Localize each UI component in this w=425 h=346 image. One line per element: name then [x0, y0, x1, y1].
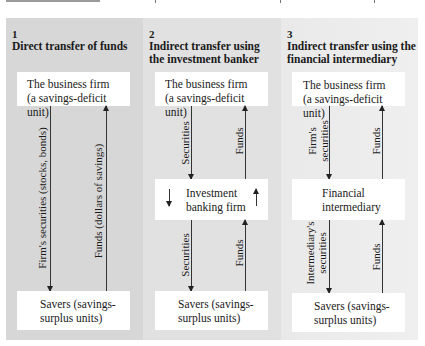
panel-financial-intermediary: 3 Indirect transfer using the financial …: [281, 18, 418, 340]
box-line: intermediary: [322, 200, 405, 214]
panel-investment-banker: 2 Indirect transfer using the investment…: [143, 18, 281, 340]
funds-up-arrow: [245, 106, 246, 179]
panel-title: Indirect transfer using the financial in…: [287, 40, 416, 66]
label-line: securities: [318, 116, 330, 166]
panel-title: Indirect transfer using the investment b…: [149, 40, 260, 66]
funds-label: Funds: [233, 121, 245, 161]
intermediary-securities-label: Intermediary's securities: [304, 216, 328, 290]
business-firm-box: The business firm (a savings-deficit uni…: [292, 72, 405, 106]
securities-down-arrow: [329, 220, 330, 293]
panel-number: 3: [287, 29, 293, 40]
box-line: surplus units): [314, 313, 405, 327]
box-line: Savers (savings-: [314, 299, 405, 313]
savers-box: Savers (savings- surplus units): [17, 291, 130, 330]
box-line: surplus units): [178, 311, 268, 325]
box-line: Financial: [322, 186, 405, 200]
label-line: Intermediary's: [304, 216, 316, 290]
box-line: banking firm: [186, 200, 246, 214]
box-line: Savers (savings-: [178, 297, 268, 311]
title-line: Indirect transfer using: [149, 40, 260, 53]
title-line: Indirect transfer using the: [287, 40, 416, 53]
securities-label: Securities: [179, 118, 191, 168]
title-line: the investment banker: [149, 53, 260, 66]
funds-up-arrow: [106, 106, 107, 291]
funds-up-arrow: [382, 220, 383, 293]
down-arrow-icon: [169, 189, 170, 206]
header-tick: [374, 0, 375, 3]
firm-securities-label: Firm's securities: [306, 116, 330, 166]
funds-label: Funds: [370, 121, 382, 161]
securities-down-arrow: [50, 106, 51, 291]
savers-box: Savers (savings- surplus units): [155, 291, 268, 330]
box-line: The business firm: [303, 78, 405, 92]
box-line: (a savings-deficit unit): [165, 91, 268, 119]
funds-label: Funds (dollars of savings): [92, 126, 104, 276]
panel-title: Direct transfer of funds: [12, 40, 128, 53]
box-line: Investment: [186, 186, 246, 200]
box-line: The business firm: [165, 77, 268, 91]
panel-number: 2: [149, 29, 155, 40]
securities-down-arrow: [191, 220, 192, 291]
up-arrow-icon: [256, 189, 257, 206]
title-line: financial intermediary: [287, 53, 416, 66]
funds-label: Funds: [233, 233, 245, 273]
panel-direct-transfer: 1 Direct transfer of funds The business …: [6, 18, 143, 340]
investment-banking-firm-box: Investment banking firm: [155, 179, 268, 220]
box-line: Savers (savings-: [40, 297, 130, 311]
business-firm-box: The business firm (a savings-deficit uni…: [155, 72, 268, 106]
header-tick: [155, 0, 156, 3]
business-firm-box: The business firm (a savings-deficit uni…: [17, 72, 130, 106]
funds-up-arrow: [382, 106, 383, 179]
header-tick: [280, 0, 281, 3]
header-rule: [6, 0, 100, 2]
securities-label: Securities: [179, 230, 191, 280]
savers-box: Savers (savings- surplus units): [292, 293, 405, 332]
funds-up-arrow: [245, 220, 246, 291]
label-line: securities: [316, 216, 328, 290]
firm-securities-label: Firm's securities (stocks, bonds): [36, 110, 48, 286]
panel-number: 1: [12, 29, 18, 40]
box-line: The business firm: [27, 77, 130, 91]
securities-down-arrow: [191, 106, 192, 179]
financial-intermediary-box: Financial intermediary: [292, 179, 405, 220]
funds-label: Funds: [370, 237, 382, 277]
label-line: Firm's: [306, 116, 318, 166]
box-line: surplus units): [40, 311, 130, 325]
